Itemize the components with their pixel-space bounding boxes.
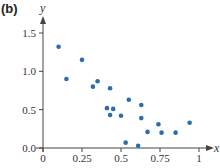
data-point bbox=[119, 114, 124, 119]
scatter-chart: (b) xy00.250.50.7510.00.51.01.5 bbox=[0, 0, 220, 168]
data-point bbox=[123, 140, 128, 145]
data-point bbox=[187, 120, 192, 125]
x-tick-label: 0.5 bbox=[114, 152, 128, 164]
axes: xy00.250.50.7510.00.51.01.5 bbox=[22, 1, 220, 164]
data-point bbox=[173, 130, 178, 135]
data-points bbox=[56, 45, 192, 149]
data-point bbox=[108, 86, 113, 91]
data-point bbox=[139, 103, 144, 108]
data-point bbox=[111, 107, 116, 112]
x-axis-label: x bbox=[213, 141, 220, 155]
data-point bbox=[105, 106, 110, 111]
data-point bbox=[64, 77, 69, 82]
data-point bbox=[139, 116, 144, 121]
data-point bbox=[108, 113, 113, 118]
y-axis-arrow-icon bbox=[40, 16, 46, 24]
x-axis-arrow-icon bbox=[206, 145, 214, 151]
x-tick-label: 0.75 bbox=[150, 152, 170, 164]
y-tick-label: 0.0 bbox=[22, 142, 36, 154]
y-axis-label: y bbox=[39, 1, 46, 15]
data-point bbox=[80, 58, 85, 63]
data-point bbox=[95, 79, 100, 84]
y-tick-label: 1.5 bbox=[22, 27, 36, 39]
data-point bbox=[127, 97, 132, 102]
y-tick-label: 1.0 bbox=[22, 65, 36, 77]
data-point bbox=[91, 84, 96, 89]
panel-label: (b) bbox=[1, 1, 18, 16]
x-tick-label: 0 bbox=[40, 152, 46, 164]
data-point bbox=[159, 130, 164, 135]
x-tick-label: 1 bbox=[196, 152, 202, 164]
x-tick-label: 0.25 bbox=[72, 152, 92, 164]
data-point bbox=[145, 130, 150, 135]
data-point bbox=[56, 45, 61, 50]
y-tick-label: 0.5 bbox=[22, 104, 36, 116]
data-point bbox=[136, 143, 141, 148]
data-point bbox=[156, 122, 161, 127]
